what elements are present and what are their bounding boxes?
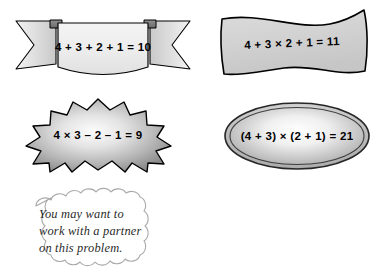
ellipse-svg: (4 + 3) × (2 + 1) = 21 [222, 100, 372, 172]
ribbon-banner-svg: 4 + 3 + 2 + 1 = 10 [14, 12, 192, 82]
ellipse-equation-text: (4 + 3) × (2 + 1) = 21 [241, 130, 354, 142]
cloud-callout-line-3: on this problem. [39, 241, 123, 255]
cloud-callout-shape: You may want to work with a partner on t… [18, 184, 182, 274]
starburst-equation-text: 4 × 3 – 2 – 1 = 9 [54, 129, 143, 141]
ellipse-shape: (4 + 3) × (2 + 1) = 21 [222, 100, 372, 172]
banner-equation-text: 4 + 3 + 2 + 1 = 10 [55, 41, 151, 53]
starburst-svg: 4 × 3 – 2 – 1 = 9 [22, 96, 174, 172]
cloud-callout-line-1: You may want to [39, 207, 124, 221]
wavy-banner-shape: 4 + 3 × 2 + 1 = 11 [218, 6, 370, 80]
starburst-shape: 4 × 3 – 2 – 1 = 9 [22, 96, 174, 172]
cloud-callout-svg: You may want to work with a partner on t… [18, 184, 182, 274]
worksheet-canvas: 4 + 3 + 2 + 1 = 10 4 + 3 × 2 + 1 = 11 [0, 0, 379, 279]
ribbon-banner-shape: 4 + 3 + 2 + 1 = 10 [14, 12, 192, 82]
cloud-callout-line-2: work with a partner [39, 224, 142, 238]
wavy-banner-svg: 4 + 3 × 2 + 1 = 11 [218, 6, 370, 80]
